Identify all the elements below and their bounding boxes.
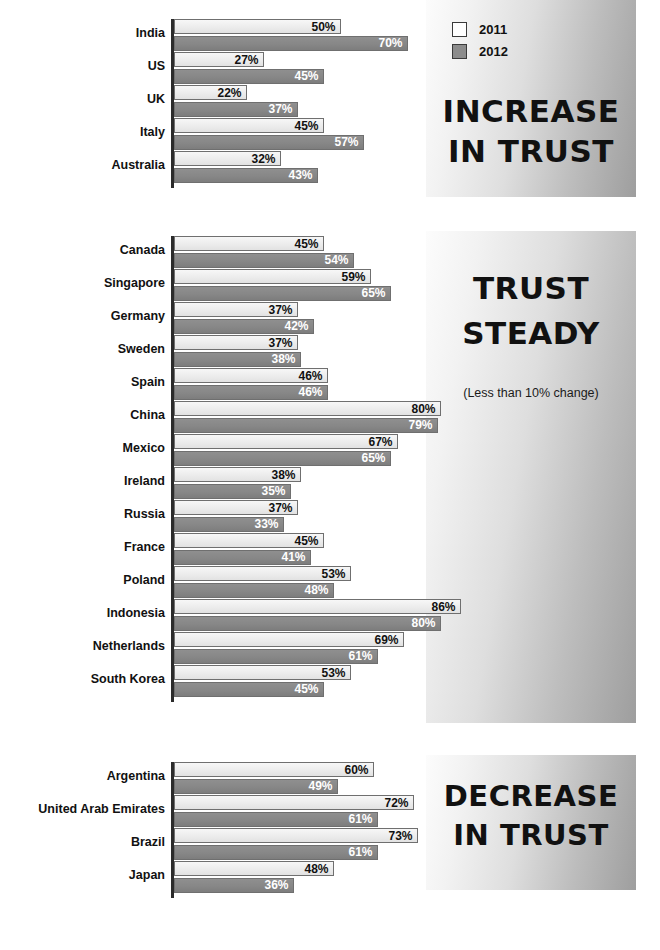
bar-row: Germany37%42% (0, 302, 660, 335)
bar-2011: 48% (174, 861, 334, 876)
category-label: United Arab Emirates (0, 802, 165, 816)
bar-value-label: 49% (308, 780, 332, 792)
bar-pair: 50%70% (174, 19, 408, 51)
bar-value-label: 45% (294, 238, 318, 250)
bar-pair: 46%46% (174, 368, 328, 400)
bar-2012: 61% (174, 812, 378, 827)
bar-2012: 54% (174, 253, 354, 268)
bar-2011: 37% (174, 302, 298, 317)
bar-2011: 45% (174, 118, 324, 133)
bar-2011: 46% (174, 368, 328, 383)
category-label: Italy (0, 125, 165, 139)
bar-row: Singapore59%65% (0, 269, 660, 302)
bar-2011: 38% (174, 467, 301, 482)
bar-pair: 27%45% (174, 52, 324, 84)
category-label: Australia (0, 158, 165, 172)
bar-2011: 73% (174, 828, 418, 843)
bar-row: France45%41% (0, 533, 660, 566)
bar-2012: 43% (174, 168, 318, 183)
bar-value-label: 67% (368, 436, 392, 448)
category-label: Russia (0, 507, 165, 521)
bar-row: US27%45% (0, 52, 660, 85)
bar-row: South Korea53%45% (0, 665, 660, 698)
bar-pair: 22%37% (174, 85, 298, 117)
bar-value-label: 73% (388, 830, 412, 842)
bar-value-label: 80% (411, 403, 435, 415)
bar-2012: 61% (174, 845, 378, 860)
bar-2011: 67% (174, 434, 398, 449)
bar-2012: 65% (174, 451, 391, 466)
bar-2011: 86% (174, 599, 461, 614)
category-label: Germany (0, 309, 165, 323)
category-label: Canada (0, 243, 165, 257)
bar-2012: 65% (174, 286, 391, 301)
category-label: Japan (0, 868, 165, 882)
bar-pair: 45%41% (174, 533, 324, 565)
bar-2012: 42% (174, 319, 314, 334)
bar-row: Netherlands69%61% (0, 632, 660, 665)
bar-value-label: 45% (294, 683, 318, 695)
bar-2011: 69% (174, 632, 404, 647)
bar-2011: 72% (174, 795, 414, 810)
bar-row: Japan48%36% (0, 861, 660, 894)
bar-pair: 67%65% (174, 434, 398, 466)
bar-pair: 32%43% (174, 151, 318, 183)
bar-value-label: 45% (294, 70, 318, 82)
bar-row: India50%70% (0, 19, 660, 52)
bar-value-label: 65% (361, 287, 385, 299)
bar-row: Italy45%57% (0, 118, 660, 151)
bar-value-label: 53% (321, 667, 345, 679)
bar-2012: 35% (174, 484, 291, 499)
bar-2011: 45% (174, 533, 324, 548)
bar-value-label: 57% (334, 136, 358, 148)
bar-value-label: 61% (348, 650, 372, 662)
bar-pair: 60%49% (174, 762, 374, 794)
bar-2011: 45% (174, 236, 324, 251)
bar-row: UK22%37% (0, 85, 660, 118)
bar-2012: 36% (174, 878, 294, 893)
bar-2012: 79% (174, 418, 438, 433)
bar-row: Spain46%46% (0, 368, 660, 401)
category-label: France (0, 540, 165, 554)
bar-2011: 59% (174, 269, 371, 284)
bar-row: Russia37%33% (0, 500, 660, 533)
bar-value-label: 50% (311, 21, 335, 33)
bar-2012: 45% (174, 69, 324, 84)
bar-pair: 53%45% (174, 665, 351, 697)
bar-pair: 53%48% (174, 566, 351, 598)
bar-value-label: 38% (271, 469, 295, 481)
bar-2012: 57% (174, 135, 364, 150)
bar-value-label: 35% (261, 485, 285, 497)
bar-pair: 69%61% (174, 632, 404, 664)
bar-value-label: 37% (268, 304, 292, 316)
bar-row: United Arab Emirates72%61% (0, 795, 660, 828)
bar-2012: 48% (174, 583, 334, 598)
bar-pair: 72%61% (174, 795, 414, 827)
bar-2011: 60% (174, 762, 374, 777)
category-label: Spain (0, 375, 165, 389)
category-label: Poland (0, 573, 165, 587)
bar-pair: 80%79% (174, 401, 441, 433)
bar-value-label: 42% (284, 320, 308, 332)
bar-pair: 38%35% (174, 467, 301, 499)
bar-2012: 46% (174, 385, 328, 400)
bar-2011: 22% (174, 85, 247, 100)
bar-value-label: 86% (431, 601, 455, 613)
bar-row: Brazil73%61% (0, 828, 660, 861)
category-label: Argentina (0, 769, 165, 783)
bar-value-label: 79% (408, 419, 432, 431)
bar-value-label: 46% (298, 370, 322, 382)
bar-pair: 45%57% (174, 118, 364, 150)
category-label: Mexico (0, 441, 165, 455)
bar-2012: 49% (174, 779, 338, 794)
category-label: Indonesia (0, 606, 165, 620)
bar-2012: 61% (174, 649, 378, 664)
bar-2011: 37% (174, 500, 298, 515)
bar-value-label: 48% (304, 584, 328, 596)
bar-2011: 80% (174, 401, 441, 416)
bar-value-label: 32% (251, 153, 275, 165)
bar-2011: 32% (174, 151, 281, 166)
category-label: Ireland (0, 474, 165, 488)
bar-value-label: 70% (378, 37, 402, 49)
bar-value-label: 46% (298, 386, 322, 398)
